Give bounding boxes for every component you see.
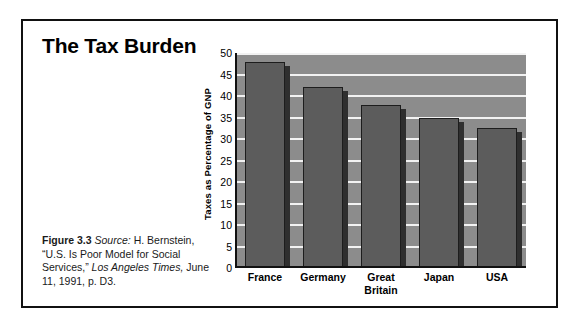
- y-axis-tick-label: 50: [210, 47, 232, 59]
- caption-publication: Los Angeles Times,: [92, 261, 184, 273]
- y-axis-tick-label: 25: [210, 155, 232, 167]
- caption-figure-number: Figure 3.3: [42, 234, 92, 246]
- y-axis-line: [235, 53, 237, 268]
- x-axis-tick-label-line: USA: [468, 271, 526, 284]
- bar: [303, 87, 343, 268]
- bar: [361, 105, 401, 268]
- y-axis-tick-label: 15: [210, 198, 232, 210]
- caption-source-author: H. Bernstein,: [134, 234, 195, 246]
- bar-fill: [419, 118, 459, 269]
- x-axis-tick-label: Germany: [294, 271, 352, 284]
- y-axis-tick-labels: 05101520253035404550: [210, 53, 232, 268]
- bar-chart: Taxes as Percentage of GNP 0510152025303…: [192, 31, 547, 303]
- x-axis-tick-label-line: Japan: [410, 271, 468, 284]
- y-axis-tick-label: 0: [210, 262, 232, 274]
- bar-fill: [303, 87, 343, 268]
- bar-fill: [245, 62, 285, 268]
- x-axis-tick-label: France: [236, 271, 294, 284]
- x-axis-tick-label: Japan: [410, 271, 468, 284]
- x-axis-tick-label-line: France: [236, 271, 294, 284]
- bars-layer: [236, 53, 526, 268]
- chart-title: The Tax Burden: [42, 34, 196, 58]
- y-axis-tick-label: 5: [210, 241, 232, 253]
- figure-frame: The Tax Burden Figure 3.3 Source: H. Ber…: [21, 19, 558, 308]
- y-axis-tick-label: 30: [210, 133, 232, 145]
- y-axis-tick-label: 35: [210, 112, 232, 124]
- x-axis-tick-label: USA: [468, 271, 526, 284]
- x-axis-tick-labels: FranceGermanyGreatBritainJapanUSA: [236, 271, 526, 303]
- x-axis-tick-label: GreatBritain: [352, 271, 410, 297]
- y-axis-tick-label: 20: [210, 176, 232, 188]
- x-axis-tick-label-line: Great: [352, 271, 410, 284]
- y-axis-tick-label: 45: [210, 69, 232, 81]
- y-axis-tick-label: 10: [210, 219, 232, 231]
- caption-source-label: Source:: [95, 234, 131, 246]
- bar: [477, 128, 517, 268]
- x-axis-line: [236, 266, 526, 268]
- bar-fill: [361, 105, 401, 268]
- y-axis-tick-label: 40: [210, 90, 232, 102]
- plot-area: [236, 53, 526, 268]
- x-axis-tick-label-line: Britain: [352, 284, 410, 297]
- x-axis-tick-label-line: Germany: [294, 271, 352, 284]
- bar-fill: [477, 128, 517, 268]
- bar: [419, 118, 459, 269]
- bar: [245, 62, 285, 268]
